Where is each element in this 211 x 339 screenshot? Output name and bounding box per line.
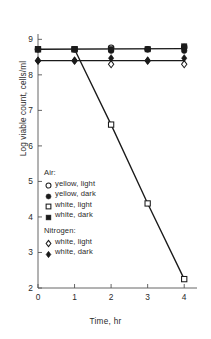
legend-item-label: white, dark [55,210,93,221]
legend-item: white, dark [55,247,96,258]
data-point [182,44,187,49]
x-tick-label: 0 [36,292,41,302]
y-tick-label: 8 [28,70,33,80]
legend-group-title: Nitrogen: [44,226,96,237]
legend-item-label: white, light [55,200,92,211]
x-tick-label: 2 [109,292,114,302]
legend-marker-open-square [46,204,51,209]
legend: Air:yellow, lightyellow, darkwhite, ligh… [55,168,96,258]
legend-marker-filled-square [46,215,51,220]
data-point [145,57,150,64]
legend-item: yellow, light [55,179,96,190]
data-point [35,57,40,64]
legend-open-diamond-icon [44,239,53,248]
y-axis-label: Log viable count, cells/ml [19,34,28,184]
legend-item-label: yellow, dark [55,189,96,200]
legend-open-circle-icon [44,181,53,190]
data-point [108,47,113,52]
legend-item: white, dark [55,210,96,221]
data-point [145,201,150,206]
data-point [72,57,77,64]
legend-item-label: white, light [55,237,92,248]
legend-marker-filled-circle [46,194,51,199]
legend-filled-diamond-icon [44,250,53,259]
y-tick-label: 3 [28,247,33,257]
y-tick-label: 5 [28,176,33,186]
figure: 0123423456789 Log viable count, cells/ml… [0,0,211,339]
y-tick-label: 2 [28,283,33,293]
legend-filled-square-icon [44,213,53,222]
legend-item: white, light [55,200,96,211]
legend-group: Nitrogen:white, lightwhite, dark [55,226,96,258]
data-point [35,47,40,52]
legend-marker-open-circle [46,183,51,188]
data-point [72,47,77,52]
legend-item-label: white, dark [55,247,93,258]
legend-marker-open-diamond [46,240,51,246]
legend-open-square-icon [44,202,53,211]
y-tick-label: 9 [28,34,33,44]
legend-group-title: Air: [44,168,96,179]
x-axis-label: Time, hr [0,317,211,326]
x-tick-label: 4 [182,292,187,302]
data-point [145,47,150,52]
x-tick-label: 3 [145,292,150,302]
data-point [182,276,187,281]
legend-group: Air:yellow, lightyellow, darkwhite, ligh… [55,168,96,221]
y-tick-label: 4 [28,212,33,222]
data-point [108,122,113,127]
legend-marker-filled-diamond [46,251,51,257]
y-tick-label: 7 [28,105,33,115]
legend-item: white, light [55,237,96,248]
legend-item: yellow, dark [55,189,96,200]
legend-item-label: yellow, light [55,179,95,190]
legend-filled-circle-icon [44,192,53,201]
chart-canvas: 0123423456789 [0,0,211,339]
x-tick-label: 1 [72,292,77,302]
y-tick-label: 6 [28,141,33,151]
